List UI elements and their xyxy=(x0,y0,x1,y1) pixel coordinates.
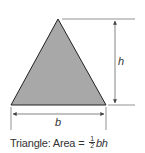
base-label: b xyxy=(55,116,61,128)
triangle-shape xyxy=(11,19,106,105)
area-formula-caption: Triangle: Area = 1 2 bh xyxy=(10,136,108,149)
triangle-diagram xyxy=(0,0,145,153)
caption-prefix: Triangle: Area = xyxy=(10,137,87,149)
height-label: h xyxy=(118,55,124,67)
one-half-fraction: 1 2 xyxy=(89,136,95,149)
caption-suffix: bh xyxy=(96,137,108,149)
fraction-denominator: 2 xyxy=(90,143,94,149)
